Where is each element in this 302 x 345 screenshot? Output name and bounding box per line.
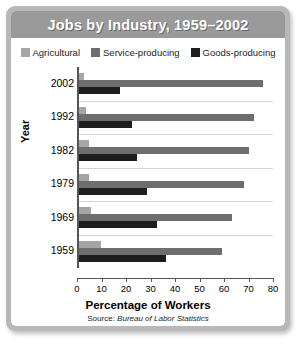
bar bbox=[79, 121, 132, 128]
x-axis-tick-label: 50 bbox=[194, 283, 205, 294]
legend-item: Service-producing bbox=[91, 47, 180, 58]
legend-item: Goods-producing bbox=[191, 47, 276, 58]
y-axis-tick-label: 1992 bbox=[19, 110, 79, 122]
x-axis-tick-label: 20 bbox=[121, 283, 132, 294]
y-axis-tick-label: 1979 bbox=[19, 177, 79, 189]
x-axis-tick bbox=[102, 278, 103, 282]
bar bbox=[79, 255, 166, 262]
y-axis-tick-label: 1959 bbox=[19, 244, 79, 256]
y-axis-tick-label: 1969 bbox=[19, 211, 79, 223]
x-axis-tick bbox=[126, 278, 127, 282]
x-axis-tick bbox=[77, 278, 78, 282]
bar bbox=[79, 114, 254, 121]
x-axis-tick-label: 0 bbox=[74, 283, 79, 294]
x-axis-tick bbox=[273, 278, 274, 282]
legend-item-label: Agricultural bbox=[33, 47, 81, 58]
chart-title: Jobs by Industry, 1959–2002 bbox=[48, 17, 249, 33]
bar-group: 2002 bbox=[79, 67, 273, 101]
chart-inner: Jobs by Industry, 1959–2002 Agricultural… bbox=[11, 11, 285, 326]
legend-swatch-icon bbox=[191, 48, 200, 57]
x-axis-tick-label: 10 bbox=[96, 283, 107, 294]
bar bbox=[79, 207, 91, 214]
x-axis-tick-label: 80 bbox=[268, 283, 279, 294]
x-axis-tick bbox=[175, 278, 176, 282]
plot-wrapper: Year 200219921982197919691959 bbox=[11, 65, 285, 280]
source-text: Bureau of Labor Statistics bbox=[117, 314, 209, 323]
source-note: Source: Bureau of Labor Statistics bbox=[11, 314, 285, 323]
x-axis-tick-label: 60 bbox=[219, 283, 230, 294]
bar bbox=[79, 107, 86, 114]
bar bbox=[79, 147, 249, 154]
bar bbox=[79, 80, 263, 87]
x-axis-tick-label: 40 bbox=[170, 283, 181, 294]
x-axis-tick bbox=[224, 278, 225, 282]
y-axis-tick-label: 1982 bbox=[19, 144, 79, 156]
bar bbox=[79, 87, 120, 94]
legend-item-label: Goods-producing bbox=[203, 47, 276, 58]
x-axis-tick bbox=[151, 278, 152, 282]
x-axis-tick bbox=[249, 278, 250, 282]
bar bbox=[79, 154, 137, 161]
bar-group: 1979 bbox=[79, 168, 273, 202]
x-axis-tick-label: 30 bbox=[145, 283, 156, 294]
bar bbox=[79, 174, 89, 181]
x-axis: 01020304050607080 bbox=[77, 278, 273, 279]
chart-legend: AgriculturalService-producingGoods-produ… bbox=[11, 47, 285, 58]
bar bbox=[79, 221, 157, 228]
bar bbox=[79, 241, 101, 248]
chart-card: Jobs by Industry, 1959–2002 Agricultural… bbox=[6, 6, 290, 331]
bar bbox=[79, 188, 147, 195]
x-axis-title: Percentage of Workers bbox=[11, 299, 285, 311]
bar bbox=[79, 140, 89, 147]
legend-item: Agricultural bbox=[21, 47, 81, 58]
y-axis-tick-label: 2002 bbox=[19, 77, 79, 89]
x-axis-tick bbox=[200, 278, 201, 282]
source-prefix: Source: bbox=[87, 314, 115, 323]
bar-group: 1969 bbox=[79, 201, 273, 235]
bar-group: 1959 bbox=[79, 235, 273, 269]
bar bbox=[79, 248, 222, 255]
plot-area: 200219921982197919691959 bbox=[77, 67, 273, 268]
legend-swatch-icon bbox=[21, 48, 30, 57]
bar bbox=[79, 214, 232, 221]
bar-group: 1982 bbox=[79, 134, 273, 168]
legend-swatch-icon bbox=[91, 48, 100, 57]
bar bbox=[79, 73, 84, 80]
chart-title-bar: Jobs by Industry, 1959–2002 bbox=[11, 11, 285, 38]
legend-item-label: Service-producing bbox=[103, 47, 180, 58]
bar-group: 1992 bbox=[79, 101, 273, 135]
y-axis-title: Year bbox=[19, 120, 31, 143]
x-axis-tick-label: 70 bbox=[243, 283, 254, 294]
bar bbox=[79, 181, 244, 188]
